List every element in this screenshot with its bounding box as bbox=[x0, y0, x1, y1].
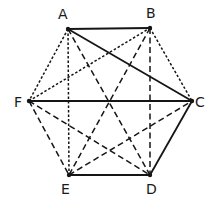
vertex-label-c: C bbox=[195, 94, 205, 110]
edge-fe-dashed bbox=[29, 101, 69, 175]
vertex-e bbox=[67, 173, 71, 177]
graph-edges bbox=[29, 28, 192, 175]
vertex-label-e: E bbox=[61, 181, 70, 197]
edge-af-dotted bbox=[29, 29, 68, 101]
vertex-label-f: F bbox=[14, 94, 22, 110]
edge-bc-dotted bbox=[150, 28, 192, 101]
vertex-label-a: A bbox=[58, 6, 68, 22]
edge-fd-dashed bbox=[29, 101, 150, 175]
vertex-d bbox=[148, 173, 152, 177]
vertex-a bbox=[66, 27, 70, 31]
edge-cd-solid bbox=[150, 101, 192, 175]
edge-ab-solid bbox=[68, 28, 150, 29]
edge-fb-dotted bbox=[29, 28, 150, 101]
hexagon-graph-diagram: ABCDEF bbox=[0, 0, 213, 202]
vertex-c bbox=[190, 99, 194, 103]
edge-ae-dotted bbox=[68, 29, 69, 175]
vertex-label-b: B bbox=[146, 5, 156, 21]
vertex-label-d: D bbox=[146, 181, 157, 197]
vertex-f bbox=[27, 99, 31, 103]
vertex-b bbox=[148, 26, 152, 30]
